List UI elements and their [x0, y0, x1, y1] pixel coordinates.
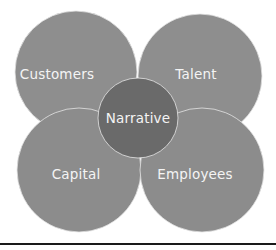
label-customers: Customers [20, 66, 94, 82]
narrative-diagram: Customers Talent Narrative Capital Emplo… [0, 0, 276, 250]
label-narrative: Narrative [106, 110, 171, 126]
label-talent: Talent [175, 66, 216, 82]
label-employees: Employees [157, 166, 233, 182]
label-capital: Capital [52, 166, 101, 182]
bottom-divider [0, 243, 276, 245]
